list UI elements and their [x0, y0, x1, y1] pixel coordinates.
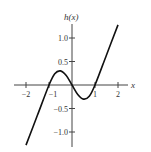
x-axis-label: x	[130, 80, 135, 90]
y-tick-label: 0.5	[58, 58, 68, 67]
y-tick-label: −0.5	[53, 105, 68, 114]
x-tick-label: 2	[116, 90, 120, 99]
y-tick-label: 1.0	[58, 34, 68, 43]
x-tick-label: −2	[22, 90, 31, 99]
x-tick-label: −1	[49, 90, 58, 99]
x-tick-label: 1	[93, 90, 97, 99]
y-axis-label: h(x)	[64, 12, 79, 22]
y-tick-label: −1.0	[53, 128, 68, 137]
chart: −2−112 1.00.5−0.5−1.0 x h(x)	[0, 0, 151, 152]
